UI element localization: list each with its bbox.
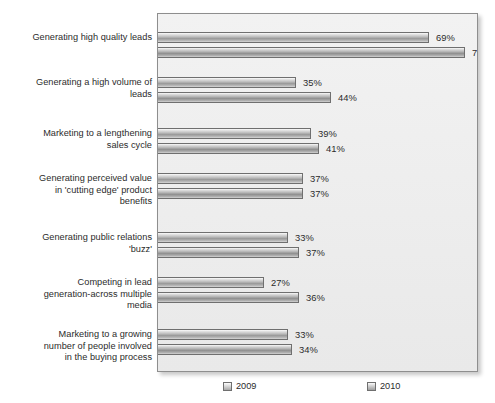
bar-2009-1 xyxy=(158,77,296,88)
bar-2010-2 xyxy=(158,143,319,154)
bar-value-label: 41% xyxy=(326,143,345,154)
category-label: Generating a high volume of leads xyxy=(0,77,152,100)
bar-value-label: 69% xyxy=(436,32,455,43)
category-label: Competing in lead generation-across mult… xyxy=(0,277,152,312)
legend-swatch-icon xyxy=(367,382,376,391)
bar-value-label: 35% xyxy=(303,77,322,88)
bar-2010-5 xyxy=(158,292,299,303)
category-label: Marketing to a lengthening sales cycle xyxy=(0,128,152,151)
bars-layer: 69%78%35%44%39%41%37%37%33%37%27%36%33%3… xyxy=(158,14,477,371)
legend-item-2009[interactable]: 2009 xyxy=(223,381,256,391)
legend-item-2010[interactable]: 2010 xyxy=(367,381,400,391)
bar-2009-3 xyxy=(158,173,303,184)
category-label: Marketing to a growing number of people … xyxy=(0,329,152,364)
bar-value-label: 44% xyxy=(338,92,357,103)
bar-value-label: 36% xyxy=(306,292,325,303)
bar-value-label: 37% xyxy=(306,247,325,258)
bar-chart: Generating high quality leads Generating… xyxy=(0,0,495,403)
bar-value-label: 34% xyxy=(299,344,318,355)
bar-2010-3 xyxy=(158,188,303,199)
bar-2009-5 xyxy=(158,277,264,288)
category-label-column: Generating high quality leads Generating… xyxy=(0,14,152,372)
bar-value-label: 37% xyxy=(310,188,329,199)
bar-2009-4 xyxy=(158,232,288,243)
category-label: Generating high quality leads xyxy=(0,32,152,44)
bar-2010-4 xyxy=(158,247,299,258)
bar-2010-0 xyxy=(158,47,465,58)
category-label: Generating public relations 'buzz' xyxy=(0,232,152,255)
chart-legend: 2009 2010 xyxy=(157,381,478,397)
bar-value-label: 37% xyxy=(310,173,329,184)
legend-label: 2009 xyxy=(236,381,256,391)
bar-2009-0 xyxy=(158,32,429,43)
plot-area: 69%78%35%44%39%41%37%37%33%37%27%36%33%3… xyxy=(157,13,478,372)
legend-swatch-icon xyxy=(223,382,232,391)
bar-2009-6 xyxy=(158,329,288,340)
bar-value-label: 27% xyxy=(271,277,290,288)
bar-value-label: 33% xyxy=(295,232,314,243)
legend-label: 2010 xyxy=(380,381,400,391)
bar-value-label: 33% xyxy=(295,329,314,340)
bar-2010-1 xyxy=(158,92,331,103)
bar-value-label: 39% xyxy=(318,128,337,139)
bar-2009-2 xyxy=(158,128,311,139)
category-label: Generating perceived value in 'cutting e… xyxy=(0,173,152,208)
bar-value-label: 78% xyxy=(472,47,478,58)
bar-2010-6 xyxy=(158,344,292,355)
